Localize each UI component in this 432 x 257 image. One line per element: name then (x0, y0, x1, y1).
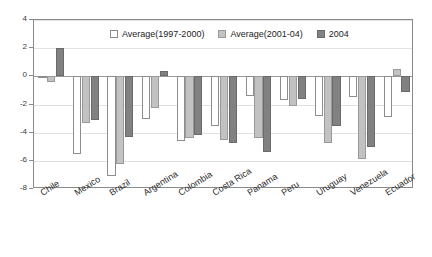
bar (367, 76, 375, 146)
bar (401, 76, 409, 91)
bar (263, 76, 271, 152)
bar (91, 76, 99, 120)
bar-groups (34, 20, 412, 187)
bar (332, 76, 340, 125)
y-tick-label: -6 (20, 156, 27, 164)
bar (289, 76, 297, 106)
chart-legend: Average(1997-2000) Average(2001-04) 2004 (110, 29, 349, 39)
y-tick-mark (29, 188, 33, 189)
legend-item-average-1997-2000: Average(1997-2000) (110, 29, 204, 39)
bar-group (103, 20, 138, 187)
y-tick-label: 2 (23, 43, 27, 51)
bar (246, 76, 254, 96)
bar (298, 76, 306, 99)
legend-item-average-2001-04: Average(2001-04) (218, 29, 302, 39)
bar (142, 76, 150, 118)
y-tick-label: 4 (23, 15, 27, 23)
y-tick-label: -4 (20, 128, 27, 136)
bar (185, 76, 193, 138)
bar (324, 76, 332, 142)
bar-group (207, 20, 242, 187)
bar (393, 69, 401, 76)
y-tick-label: -8 (20, 184, 27, 192)
bar (116, 76, 124, 163)
bar (280, 76, 288, 99)
bar (73, 76, 81, 153)
bar-group (379, 20, 412, 187)
bar (229, 76, 237, 142)
bar (194, 76, 202, 135)
bar (254, 76, 262, 138)
bar-group (276, 20, 311, 187)
legend-item-2004: 2004 (317, 29, 349, 39)
bar-group (345, 20, 380, 187)
bar-group (34, 20, 69, 187)
white-swatch-icon (110, 30, 118, 38)
bar (160, 71, 168, 76)
y-tick-label: 0 (23, 71, 27, 79)
bar-group (69, 20, 104, 187)
y-axis: 420-2-4-6-8 (0, 19, 33, 188)
light-gray-swatch-icon (218, 30, 226, 38)
bar (56, 48, 64, 76)
bar-group (138, 20, 173, 187)
plot-area (33, 19, 413, 188)
bar (349, 76, 357, 97)
bar (384, 76, 392, 117)
bar-group (172, 20, 207, 187)
bar (177, 76, 185, 141)
legend-label: Average(2001-04) (230, 29, 302, 39)
bar (220, 76, 228, 139)
bar (315, 76, 323, 115)
bar (38, 76, 46, 78)
bar (358, 76, 366, 159)
bar (47, 76, 55, 82)
bar-group (241, 20, 276, 187)
legend-label: Average(1997-2000) (122, 29, 204, 39)
legend-label: 2004 (329, 29, 349, 39)
bar (211, 76, 219, 125)
bar (82, 76, 90, 122)
bar-chart: 420-2-4-6-8 Average(1997-2000) Average(2… (0, 0, 432, 257)
y-tick-label: -2 (20, 100, 27, 108)
bar (151, 76, 159, 108)
x-axis-labels: ChileMexicoBrazilArgentinaColombiaCosta … (33, 190, 413, 254)
dark-gray-swatch-icon (317, 30, 325, 38)
bar (125, 76, 133, 137)
bar-group (310, 20, 345, 187)
bar (107, 76, 115, 176)
